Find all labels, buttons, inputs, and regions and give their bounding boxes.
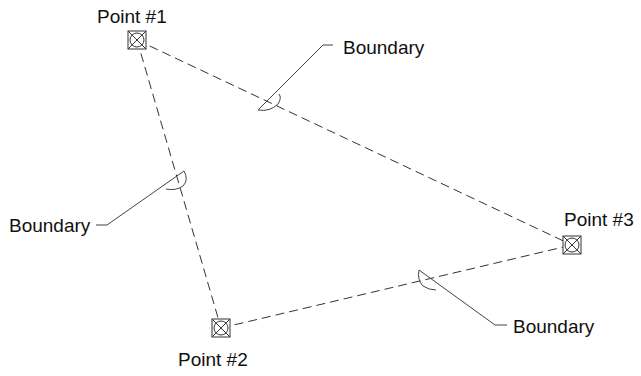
point-1: Point #1: [97, 6, 167, 49]
callout-left: Boundary: [9, 171, 186, 236]
point-2: Point #2: [178, 319, 248, 370]
survey-marker-icon: [128, 31, 146, 49]
point-2-label: Point #2: [178, 349, 248, 370]
point-3: Point #3: [563, 209, 634, 254]
leader-line-left: [96, 171, 184, 225]
callout-bottom: Boundary: [419, 270, 595, 337]
callout-top: Boundary: [258, 37, 425, 110]
leader-line-top: [258, 45, 333, 110]
survey-marker-icon: [563, 236, 581, 254]
arc-tick-left: [166, 171, 186, 190]
boundary-label-top: Boundary: [343, 37, 425, 58]
boundary-label-bottom: Boundary: [513, 316, 595, 337]
boundary-label-left: Boundary: [9, 215, 91, 236]
edge-point1-point3: [137, 40, 572, 245]
edge-point1-point2: [137, 40, 221, 328]
point-3-label: Point #3: [564, 209, 634, 230]
survey-marker-icon: [212, 319, 230, 337]
boundary-diagram: Boundary Boundary Boundary Point #1 Poin…: [0, 0, 641, 376]
point-1-label: Point #1: [97, 6, 167, 27]
